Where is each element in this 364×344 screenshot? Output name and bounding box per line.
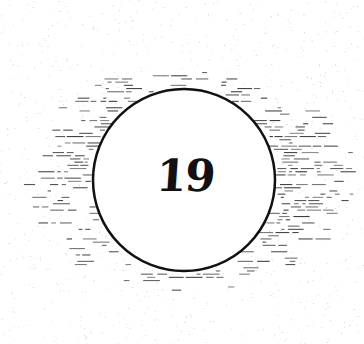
number-nineteen: 19	[148, 148, 222, 204]
